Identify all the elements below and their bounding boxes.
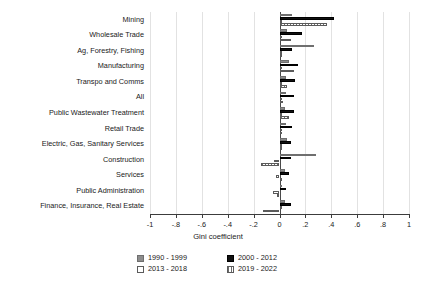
- y-axis-label: Construction: [103, 156, 144, 164]
- bar: [280, 147, 283, 150]
- x-axis-tick: [331, 214, 332, 218]
- legend-label: 2013 - 2018: [148, 265, 187, 273]
- chart-legend: 1990 - 1999 2000 - 2012 2013 - 2018 2019…: [0, 254, 436, 273]
- bar: [277, 194, 280, 197]
- bar: [280, 178, 282, 181]
- bar-group: [150, 60, 409, 72]
- bar: [280, 23, 328, 26]
- bar: [280, 101, 284, 104]
- legend-item-2000-2012: 2000 - 2012: [227, 254, 299, 262]
- bar: [261, 163, 279, 166]
- bar: [280, 70, 294, 73]
- bar-track: [150, 178, 409, 181]
- gini-coefficient-bar-chart: MiningWholesale TradeAg, Forestry, Fishi…: [0, 0, 436, 296]
- bar: [280, 85, 288, 88]
- x-axis-tick: [202, 214, 203, 218]
- bar-group: [150, 138, 409, 150]
- legend-swatch-icon: [137, 255, 144, 262]
- x-axis-title: Gini coefficient: [0, 232, 436, 241]
- x-axis-tick-label: 0: [277, 220, 281, 229]
- x-axis-tick-label: -1: [147, 220, 154, 229]
- bar: [280, 132, 283, 135]
- legend-row-bottom: 2013 - 2018 2019 - 2022: [137, 265, 299, 273]
- x-axis-tick: [280, 214, 281, 218]
- bar-group: [150, 45, 409, 57]
- bar: [280, 54, 283, 57]
- x-axis-tick: [357, 214, 358, 218]
- legend-item-2019-2022: 2019 - 2022: [227, 265, 299, 273]
- bar-group: [150, 200, 409, 212]
- x-axis-tick: [305, 214, 306, 218]
- x-axis-tick: [150, 214, 151, 218]
- y-axis-label: Finance, Insurance, Real Estate: [40, 202, 144, 210]
- x-axis-tick-label: .8: [380, 220, 386, 229]
- bar-track: [150, 70, 409, 73]
- legend-label: 1990 - 1999: [148, 254, 187, 262]
- bar-group: [150, 185, 409, 197]
- x-axis-tick-label: -.4: [223, 220, 232, 229]
- bar-group: [150, 92, 409, 104]
- bar-track: [150, 54, 409, 57]
- bar-track: [150, 23, 409, 26]
- legend-swatch-icon: [137, 266, 144, 273]
- x-axis-tick-label: .4: [328, 220, 334, 229]
- y-axis-label: Public Administration: [76, 187, 144, 195]
- x-axis-tick: [176, 214, 177, 218]
- legend-label: 2000 - 2012: [238, 254, 277, 262]
- y-axis-label: Transpo and Comms: [76, 78, 144, 86]
- x-axis-tick-label: 1: [407, 220, 411, 229]
- x-axis-tick: [228, 214, 229, 218]
- legend-swatch-icon: [227, 255, 234, 262]
- x-axis-tick-label: .2: [302, 220, 308, 229]
- bar-track: [150, 147, 409, 150]
- y-axis-label: Electric, Gas, Sanitary Services: [42, 140, 144, 148]
- x-axis-tick: [383, 214, 384, 218]
- legend-row-top: 1990 - 1999 2000 - 2012: [137, 254, 299, 262]
- bar: [280, 39, 292, 42]
- gridline: [409, 12, 410, 214]
- y-axis-label: All: [136, 93, 144, 101]
- bar-group: [150, 154, 409, 166]
- x-axis-tick-label: .6: [354, 220, 360, 229]
- bar-group: [150, 123, 409, 135]
- y-axis-label: Wholesale Trade: [89, 31, 144, 39]
- legend-item-1990-1999: 1990 - 1999: [137, 254, 209, 262]
- bar-group: [150, 14, 409, 26]
- y-axis-label: Mining: [123, 16, 145, 24]
- bar-group: [150, 107, 409, 119]
- x-axis-tick-label: -.6: [198, 220, 207, 229]
- bar-track: [150, 101, 409, 104]
- legend-swatch-icon: [227, 266, 234, 273]
- x-axis-tick-label: -.8: [172, 220, 181, 229]
- x-axis-tick: [254, 214, 255, 218]
- bar-track: [150, 210, 409, 213]
- bar-group: [150, 29, 409, 41]
- plot-area: [150, 12, 409, 214]
- bar-track: [150, 116, 409, 119]
- x-axis-tick-label: -.2: [249, 220, 258, 229]
- bar-track: [150, 194, 409, 197]
- y-axis-category-labels: MiningWholesale TradeAg, Forestry, Fishi…: [0, 12, 148, 214]
- bar-track: [150, 132, 409, 135]
- y-axis-label: Ag, Forestry, Fishing: [77, 47, 144, 55]
- bar-track: [150, 163, 409, 166]
- y-axis-label: Public Wastewater Treatment: [49, 109, 144, 117]
- bar-track: [150, 85, 409, 88]
- legend-label: 2019 - 2022: [238, 265, 277, 273]
- y-axis-label: Retail Trade: [105, 125, 144, 133]
- y-axis-label: Manufacturing: [98, 62, 144, 70]
- bar-group: [150, 169, 409, 181]
- bar-track: [150, 39, 409, 42]
- legend-item-2013-2018: 2013 - 2018: [137, 265, 209, 273]
- bar: [280, 116, 289, 119]
- bar: [263, 210, 280, 213]
- x-axis-tick: [409, 214, 410, 218]
- bar-group: [150, 76, 409, 88]
- y-axis-label: Services: [116, 171, 144, 179]
